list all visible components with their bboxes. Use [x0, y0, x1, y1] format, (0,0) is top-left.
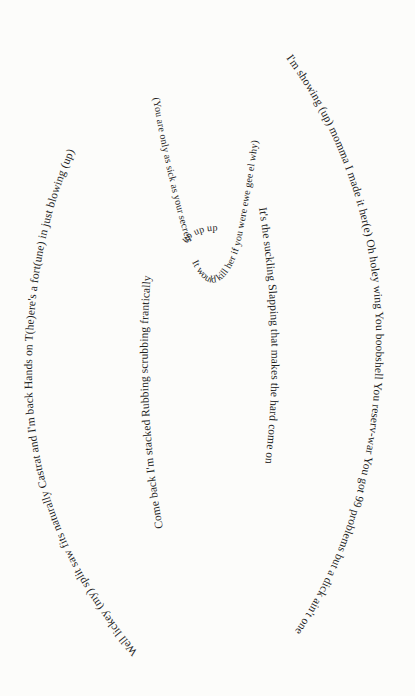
inner-right-line: It's the suckling Slapping that makes th… [257, 206, 282, 465]
poem-page: Well lickey (my) split saw fits naturall… [0, 0, 415, 696]
center-bottom-line: It would kill her if you were ewe gee el… [190, 139, 261, 284]
shape-poem-canvas: Well lickey (my) split saw fits naturall… [0, 0, 415, 696]
center-left-line: (You are only as sick as your secrets [150, 96, 195, 243]
outer-right-line: I'm showing (up) momma I made it her(e) … [284, 52, 386, 637]
outer-left-line: Well lickey (my) split saw fits naturall… [22, 147, 140, 659]
inner-left-line: Come back I'm stacked Rubbing scrubbing … [138, 275, 165, 530]
